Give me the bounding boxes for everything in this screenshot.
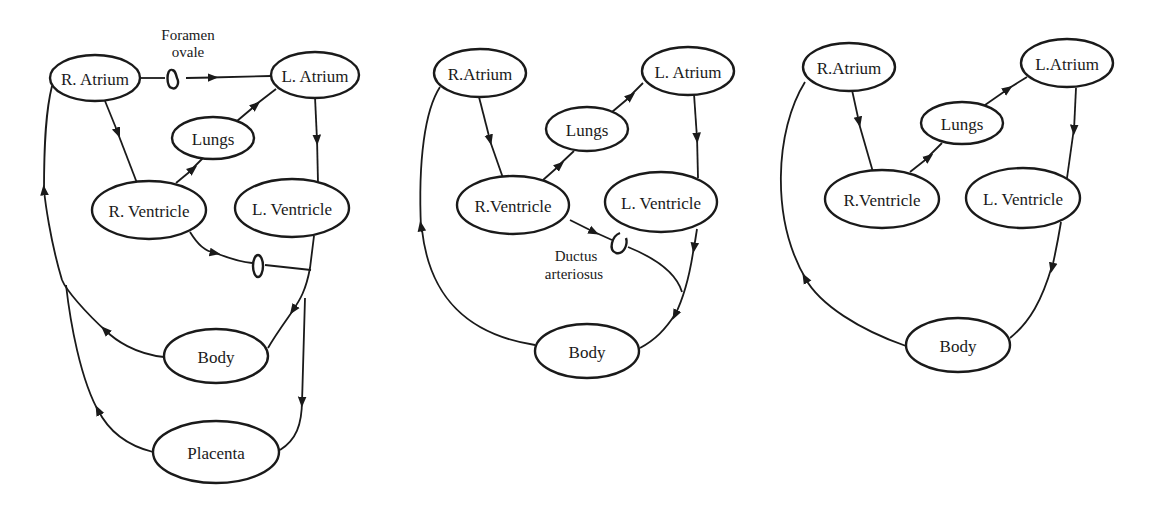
edge-foramen-latrium-b [211,76,271,78]
edge-lventricle-body-b [268,309,294,348]
edge-ductus-aorta [265,265,311,270]
node-label: Placenta [187,444,245,463]
edge-ratrium-rventricle-a [105,101,118,133]
edge-rventricle-lungs-b [191,158,203,170]
edge-body-ratrium-b [781,82,807,281]
edge-ratrium-rventricle-b [858,120,873,172]
node-r-ventricle: R. Ventricle [92,181,206,239]
edge-lungs-latrium-a [612,96,631,112]
node-label: Lungs [566,121,609,140]
edge-rventricle-lungs-b [558,151,574,166]
edge-rventricle-lungs-a [910,157,929,172]
diagram-fetal: R. Atrium L. Atrium Lungs R. Ventricle L… [44,27,359,483]
ductus-arteriosus-label-line1: Ductus [555,248,598,264]
node-lungs: Lungs [921,102,1003,144]
edge-latrium-lventricle-a [315,97,317,140]
edge-aorta-placenta-b [280,400,302,450]
edge-placenta-ratrium-a [98,410,153,452]
node-r-ventricle: R.Ventricle [825,170,939,228]
edge-rventricle-lungs-b [927,143,942,158]
edge-rventricle-ductus-a [190,232,215,253]
edge-latrium-lventricle-b [1067,128,1074,178]
node-l-ventricle: L. Ventricle [235,179,349,237]
foramen-ovale-label-line1: Foramen [161,27,215,43]
edge-lventricle-body-b [675,246,694,315]
diagram-adult: R.Atrium L.Atrium Lungs R.Ventricle L. V… [781,39,1113,372]
node-l-ventricle: L. Ventricle [966,168,1080,228]
node-label: R.Atrium [448,65,513,84]
node-r-atrium: R.Atrium [803,43,895,91]
node-l-atrium: L. Atrium [642,47,734,95]
edge-latrium-lventricle-b [317,138,318,183]
diagram-transitional: R.Atrium L. Atrium Lungs R.Ventricle L. … [420,47,734,378]
node-label: R. Atrium [61,70,129,89]
foramen-ovale-label-line2: ovale [172,44,205,60]
node-r-atrium: R.Atrium [434,49,526,97]
node-label: Body [198,348,235,367]
node-lungs: Lungs [172,117,254,159]
node-label: R.Ventricle [475,197,552,216]
node-l-atrium: L. Atrium [271,52,359,98]
edge-ratrium-rventricle-b [117,131,137,183]
node-r-atrium: R. Atrium [50,55,140,101]
edge-ratrium-rventricle-b [489,138,503,178]
edge-lungs-latrium-b [629,83,643,97]
node-label: R.Atrium [817,59,882,78]
edge-body-ratrium-a [105,330,164,357]
edge-rventricle-ductus-b [592,231,612,240]
node-label: L.Atrium [1035,55,1099,74]
edge-venacava-a [44,190,62,280]
node-label: L. Ventricle [983,190,1063,209]
edge-lventricle-body-a [694,229,697,248]
edge-foramen-latrium-a [186,78,213,79]
edge-lungs-latrium-a [985,89,1008,105]
edge-rventricle-lungs-a [543,165,560,180]
edge-body-ratrium-b [420,87,440,228]
edge-lventricle-body-a [1052,222,1061,268]
edge-latrium-lventricle-a [1074,88,1076,130]
edge-body-ratrium-a [422,230,535,345]
node-label: L. Ventricle [252,200,332,219]
node-label: R. Ventricle [109,202,190,221]
edge-rventricle-ductus-b [213,252,252,263]
node-body: Body [906,318,1010,372]
edge-aorta-placenta-a [302,298,305,402]
node-label: Lungs [192,130,235,149]
node-label: R.Ventricle [844,191,921,210]
edge-latrium-lventricle-b [697,136,698,178]
edge-ratrium-rventricle-a [479,97,490,140]
node-label: Body [940,337,977,356]
node-placenta: Placenta [153,421,279,483]
ductus-arteriosus-valve-icon [253,255,263,277]
edge-lventricle-body-c [640,313,676,348]
edge-lungs-latrium-a [237,105,256,121]
node-label: Lungs [941,115,984,134]
node-l-ventricle: L. Ventricle [605,172,717,232]
edge-body-ratrium-a [805,278,906,346]
node-lungs: Lungs [546,107,628,151]
node-l-atrium: L.Atrium [1021,39,1113,87]
edge-ratrium-rventricle-a [852,90,859,122]
edge-rventricle-ductus-a [570,220,594,232]
ductus-arteriosus-valve-icon [612,233,627,253]
circulation-diagrams: R. Atrium L. Atrium Lungs R. Ventricle L… [0,0,1156,527]
node-r-ventricle: R.Ventricle [457,176,569,234]
edge-venacava-b [44,86,52,192]
edge-lventricle-body-b [1010,266,1052,338]
node-body: Body [164,329,268,383]
node-label: Body [569,343,606,362]
edge-latrium-lventricle-a [694,94,697,138]
edge-placenta-ratrium-b [66,285,100,414]
ductus-arteriosus-label-line2: arteriosus [545,266,603,282]
edge-lungs-latrium-b [254,89,276,106]
edge-ductus-aorta [628,247,682,292]
edge-lungs-latrium-b [1006,77,1027,90]
foramen-ovale-valve-icon [168,70,179,89]
edge-lventricle-body-a [293,236,314,310]
node-label: L. Atrium [654,63,721,82]
node-label: L. Ventricle [621,194,701,213]
node-body: Body [535,324,639,378]
node-label: L. Atrium [281,67,348,86]
edge-rventricle-lungs-a [176,169,193,183]
